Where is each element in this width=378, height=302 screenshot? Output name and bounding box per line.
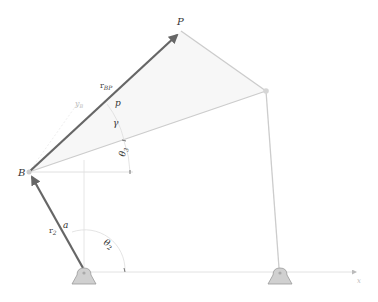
label-vector-r2: r2: [49, 226, 57, 236]
gamma-tick: [122, 140, 126, 141]
label-length-a: a: [63, 220, 68, 230]
x-axis-label: x: [357, 277, 361, 285]
ground-pivot-o2: [72, 268, 96, 284]
vector-r2: [32, 177, 83, 268]
ground-pivot-o4: [268, 268, 292, 284]
rocker-link: [266, 91, 279, 268]
angle-theta2-arc: [72, 230, 125, 271]
label-angle-gamma: γ: [113, 118, 119, 128]
label-angle-theta2: θ2: [102, 237, 116, 251]
linkage-diagram: x P B rBP p yB γ θ3: [0, 0, 378, 302]
label-vector-rbp: rBP: [100, 81, 113, 91]
joint-b: [27, 170, 32, 175]
label-point-b: B: [17, 167, 25, 178]
label-length-p: p: [115, 98, 121, 108]
label-angle-theta3: θ3: [117, 146, 129, 157]
coupler-body: [29, 31, 266, 172]
label-point-p: P: [176, 16, 184, 27]
joint-c: [263, 88, 269, 94]
label-axis-yb: yB: [74, 99, 84, 109]
